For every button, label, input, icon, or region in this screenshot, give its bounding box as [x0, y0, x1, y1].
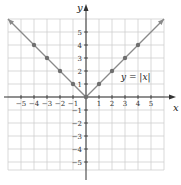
y-tick-label: 1 [78, 81, 82, 89]
y-tick-label: 2 [78, 68, 82, 76]
data-point [58, 69, 62, 73]
data-point [32, 43, 36, 47]
data-point [123, 56, 127, 60]
data-point [110, 69, 114, 73]
x-axis-label: x [173, 102, 179, 113]
y-tick-label: −5 [72, 159, 82, 167]
y-tick-label: −4 [72, 146, 83, 154]
absolute-value-graph: −5−4−3−2−112345−5−4−3−2−112345 y x y = |… [0, 0, 181, 185]
x-tick-label: −4 [29, 100, 40, 108]
y-axis-label: y [76, 2, 83, 13]
equation-label: y = |x| [120, 72, 151, 83]
y-tick-label: 3 [78, 55, 82, 63]
x-tick-label: 4 [136, 100, 141, 108]
x-tick-label: 5 [149, 100, 153, 108]
data-point [97, 82, 101, 86]
data-point [45, 56, 49, 60]
x-tick-label: −3 [42, 100, 52, 108]
x-tick-label: 1 [97, 100, 101, 108]
x-tick-label: −2 [55, 100, 65, 108]
data-point [71, 82, 75, 86]
x-tick-label: 2 [110, 100, 114, 108]
y-tick-label: −2 [72, 120, 82, 128]
y-tick-label: −3 [72, 133, 82, 141]
y-axis-arrow-icon [84, 4, 89, 11]
y-tick-label: 4 [78, 42, 83, 50]
axes [4, 4, 176, 180]
y-tick-label: 5 [78, 29, 82, 37]
x-axis-arrow-icon [169, 95, 176, 100]
data-point [136, 43, 140, 47]
y-tick-label: −1 [72, 107, 82, 115]
data-point [84, 95, 88, 99]
x-tick-label: 3 [123, 100, 127, 108]
x-tick-label: −5 [16, 100, 26, 108]
